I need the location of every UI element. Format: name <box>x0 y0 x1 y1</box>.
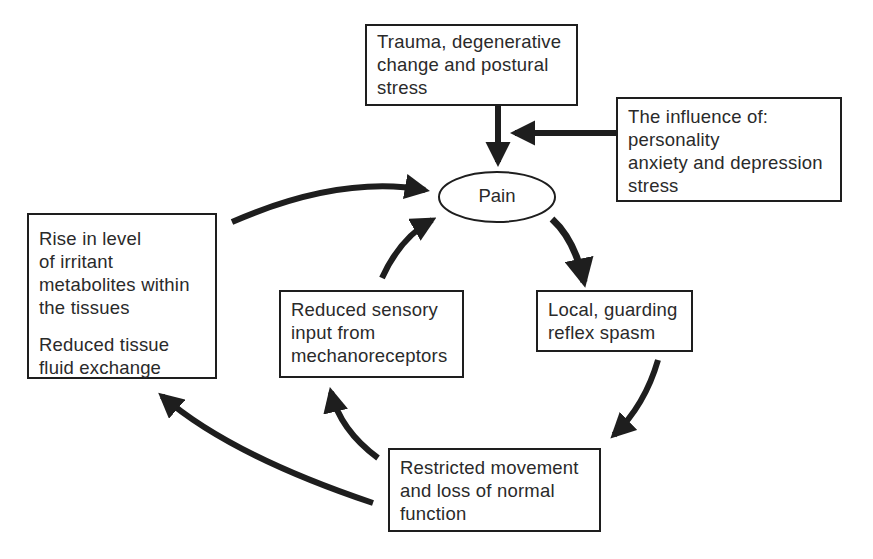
metabolites-line-2: of irritant <box>39 250 205 273</box>
sensory-line-2: input from <box>291 321 452 344</box>
sensory-line-1: Reduced sensory <box>291 298 452 321</box>
trauma-line-3: stress <box>377 76 566 99</box>
spasm-box: Local, guarding reflex spasm <box>536 290 693 352</box>
metabolites-gap <box>39 319 205 333</box>
spasm-line-1: Local, guarding <box>548 298 681 321</box>
arrow-restricted-to-sensory <box>331 392 378 458</box>
arrow-pain-to-spasm <box>552 219 584 282</box>
metabolites-line-5: Reduced tissue <box>39 333 205 356</box>
arrow-spasm-to-restricted <box>614 360 658 435</box>
pain-label: Pain <box>439 185 555 207</box>
influence-line-2: personality <box>628 128 830 151</box>
trauma-box: Trauma, degenerative change and postural… <box>365 24 578 106</box>
arrow-metabolites-to-pain <box>232 186 425 222</box>
trauma-line-2: change and postural <box>377 53 566 76</box>
influence-box: The influence of: personality anxiety an… <box>616 97 842 202</box>
trauma-line-1: Trauma, degenerative <box>377 30 566 53</box>
metabolites-line-6: fluid exchange <box>39 356 205 379</box>
metabolites-line-1: Rise in level <box>39 227 205 250</box>
influence-line-3: anxiety and depression <box>628 151 830 174</box>
restricted-line-3: function <box>400 502 589 525</box>
metabolites-line-4: the tissues <box>39 296 205 319</box>
metabolites-line-3: metabolites within <box>39 273 205 296</box>
influence-line-4: stress <box>628 174 830 197</box>
sensory-box: Reduced sensory input from mechanorecept… <box>279 290 464 378</box>
metabolites-box: Rise in level of irritant metabolites wi… <box>27 213 217 379</box>
restricted-line-1: Restricted movement <box>400 456 589 479</box>
restricted-line-2: and loss of normal <box>400 479 589 502</box>
spasm-line-2: reflex spasm <box>548 321 681 344</box>
restricted-box: Restricted movement and loss of normal f… <box>388 448 601 532</box>
influence-line-1: The influence of: <box>628 105 830 128</box>
arrow-sensory-to-pain <box>382 220 432 278</box>
sensory-line-3: mechanoreceptors <box>291 344 452 367</box>
